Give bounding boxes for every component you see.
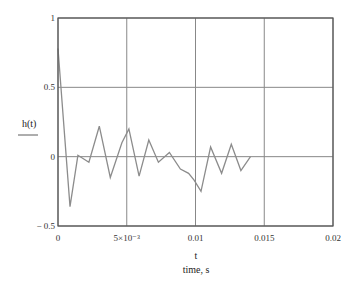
x-axis-label: t [195,250,198,261]
x-tick-label: 0 [56,233,61,243]
x-tick-label: 0.02 [325,233,341,243]
y-tick-label: 0.5 [44,82,56,92]
y-axis-label: h(t) [22,118,36,130]
y-axis-ticks: − 0.500.51 [36,13,55,231]
impulse-response-chart: 05×10⁻³0.010.0150.02 − 0.500.51 h(t) t t… [0,0,357,288]
x-tick-label: 0.015 [254,233,275,243]
x-tick-label: 0.01 [188,233,204,243]
x-tick-label: 5×10⁻³ [114,233,141,243]
y-tick-label: − 0.5 [36,221,55,231]
y-tick-label: 1 [51,13,56,23]
y-tick-label: 0 [51,152,56,162]
grid [58,18,333,226]
x-axis-sublabel: time, s [183,264,210,275]
series-line-h-t [58,49,251,207]
x-axis-ticks: 05×10⁻³0.010.0150.02 [56,233,341,243]
